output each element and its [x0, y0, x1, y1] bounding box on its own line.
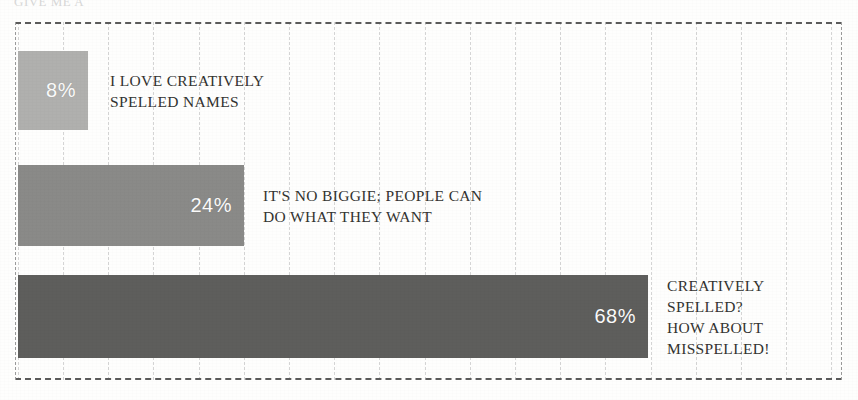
bar-category-label: I LOVE CREATIVELY SPELLED NAMES — [110, 70, 264, 112]
bar-row: 8% I LOVE CREATIVELY SPELLED NAMES — [18, 51, 842, 130]
clipped-header-text: GIVE ME A — [14, 0, 194, 6]
bar-love-creatively-spelled[interactable]: 8% — [18, 51, 88, 130]
bar-misspelled[interactable]: 68% — [18, 275, 648, 358]
bar-no-biggie[interactable]: 24% — [18, 165, 244, 246]
bar-value-label: 8% — [46, 79, 88, 102]
bar-series: 8% I LOVE CREATIVELY SPELLED NAMES 24% I… — [15, 22, 842, 380]
bar-category-label: CREATIVELY SPELLED? HOW ABOUT MISSPELLED… — [667, 275, 770, 359]
bar-value-label: 24% — [190, 194, 244, 217]
bar-category-label: IT'S NO BIGGIE; PEOPLE CAN DO WHAT THEY … — [263, 185, 482, 227]
bar-chart: 8% I LOVE CREATIVELY SPELLED NAMES 24% I… — [15, 22, 842, 380]
bar-row: 24% IT'S NO BIGGIE; PEOPLE CAN DO WHAT T… — [18, 165, 842, 246]
bar-value-label: 68% — [594, 305, 648, 328]
bar-row: 68% CREATIVELY SPELLED? HOW ABOUT MISSPE… — [18, 275, 842, 358]
